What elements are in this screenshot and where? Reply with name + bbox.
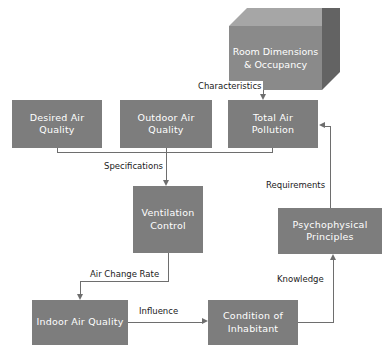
edge-label-knowledge: Knowledge	[276, 274, 325, 284]
node-condition-of-inhabitant[interactable]: Condition of Inhabitant	[208, 300, 298, 345]
node-psychophysical-principles[interactable]: Psychophysical Principles	[278, 208, 382, 254]
cube-side-face	[322, 8, 340, 72]
edge-specifications-to-ventilation	[166, 152, 167, 180]
flowchart-canvas: Room Dimensions & Occupancy Desired Air …	[0, 0, 390, 361]
node-indoor-air-quality[interactable]: Indoor Air Quality	[32, 300, 128, 345]
node-outdoor-air-quality-label: Outdoor Air Quality	[123, 112, 209, 137]
edge-label-requirements: Requirements	[265, 180, 326, 190]
node-condition-of-inhabitant-label: Condition of Inhabitant	[211, 310, 295, 335]
edge-influence-hline	[128, 322, 202, 323]
edge-knowledge-vline	[333, 260, 334, 322]
node-indoor-air-quality-label: Indoor Air Quality	[36, 316, 123, 329]
cube-side-bevel	[322, 72, 340, 90]
cube-top-face	[247, 8, 322, 26]
node-total-air-pollution-label: Total Air Pollution	[231, 112, 315, 137]
edge-specifications-bus	[57, 152, 273, 153]
node-ventilation-control-label: Ventilation Control	[136, 207, 200, 232]
edge-air-change-rate-hline	[80, 281, 169, 282]
edge-psycho-to-pollution-vline	[330, 126, 331, 208]
node-total-air-pollution[interactable]: Total Air Pollution	[228, 100, 318, 148]
edge-knowledge-hline	[298, 322, 334, 323]
cube-top-bevel	[229, 8, 247, 26]
edge-label-influence: Influence	[138, 306, 179, 316]
edge-air-change-rate-vline-a	[168, 253, 169, 281]
node-psychophysical-principles-label: Psychophysical Principles	[281, 219, 379, 244]
node-desired-air-quality[interactable]: Desired Air Quality	[12, 100, 102, 148]
edge-psycho-to-pollution-arrowhead	[319, 122, 325, 128]
edge-psycho-to-pollution-hline	[325, 126, 331, 127]
node-room-dimensions-occupancy[interactable]: Room Dimensions & Occupancy	[229, 8, 340, 90]
edge-air-change-rate-vline-b	[80, 281, 81, 294]
edge-label-air-change-rate: Air Change Rate	[89, 269, 160, 279]
node-ventilation-control[interactable]: Ventilation Control	[133, 186, 203, 253]
node-outdoor-air-quality[interactable]: Outdoor Air Quality	[120, 100, 212, 148]
node-desired-air-quality-label: Desired Air Quality	[15, 112, 99, 137]
edge-label-specifications: Specifications	[103, 161, 164, 171]
edge-knowledge-arrowhead	[330, 254, 336, 260]
edge-label-characteristics: Characteristics	[197, 81, 263, 91]
node-room-dimensions-occupancy-label: Room Dimensions & Occupancy	[229, 45, 322, 71]
